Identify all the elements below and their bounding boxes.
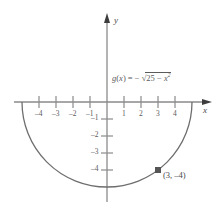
coordinate-plane — [0, 0, 219, 210]
x-axis-label: x — [203, 106, 207, 115]
y-tick-label-neg3: –3 — [91, 148, 99, 156]
y-axis-label: y — [114, 16, 118, 25]
y-axis-arrow-icon — [104, 13, 110, 23]
point-annotation-label: (3, –4) — [163, 171, 186, 180]
x-tick-label-neg2: –2 — [69, 110, 77, 118]
point-marker — [155, 167, 161, 173]
x-tick-label-4: 4 — [173, 110, 177, 118]
x-tick-label-neg3: –3 — [52, 110, 60, 118]
x-tick-label-3: 3 — [156, 110, 160, 118]
x-tick-label-neg4: –4 — [35, 110, 43, 118]
y-tick-label-neg2: –2 — [91, 131, 99, 139]
graph-figure: g(x) = − √25 − x2 y x –4 –3 –2 –1 1 2 3 … — [0, 0, 219, 210]
function-equation-label: g(x) = − √25 − x2 — [112, 73, 171, 82]
x-tick-label-1: 1 — [122, 110, 126, 118]
y-tick-label-neg4: –4 — [91, 165, 99, 173]
x-tick-label-2: 2 — [139, 110, 143, 118]
y-tick-label-neg1: –1 — [91, 114, 99, 122]
